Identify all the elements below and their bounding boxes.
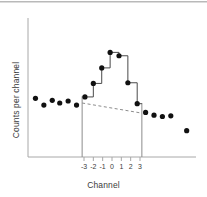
data-point-marker bbox=[82, 94, 87, 99]
data-point-marker bbox=[151, 113, 156, 118]
data-point-marker bbox=[168, 113, 173, 118]
data-point-marker bbox=[160, 114, 165, 119]
data-point-marker bbox=[74, 102, 79, 107]
x-tick-label: 0 bbox=[110, 163, 114, 170]
data-point-marker bbox=[91, 81, 96, 86]
histogram-step-outline bbox=[85, 52, 142, 103]
data-point-marker bbox=[108, 50, 113, 55]
data-point-marker bbox=[184, 128, 189, 133]
data-point-marker bbox=[57, 100, 62, 105]
axis-layer bbox=[28, 18, 196, 161]
data-point-marker bbox=[116, 53, 121, 58]
figure-canvas: -3-2-10123 Channel Counts per channel bbox=[0, 0, 207, 197]
x-tick-label: 2 bbox=[129, 163, 133, 170]
data-point-marker bbox=[41, 102, 46, 107]
background-continuum-dashed-line bbox=[82, 103, 142, 113]
data-point-markers bbox=[33, 50, 189, 133]
data-point-marker bbox=[50, 98, 55, 103]
x-tick-label: -3 bbox=[81, 163, 87, 170]
background-continuum-line bbox=[82, 103, 142, 113]
y-axis-title: Counts per channel bbox=[11, 40, 21, 160]
data-point-marker bbox=[33, 96, 38, 101]
data-point-marker bbox=[143, 110, 148, 115]
histogram-step-path bbox=[85, 52, 142, 103]
x-tick-label: 1 bbox=[119, 163, 123, 170]
x-tick-label: -2 bbox=[90, 163, 96, 170]
x-tick-label: 3 bbox=[138, 163, 142, 170]
region-of-interest-boundaries bbox=[82, 96, 142, 157]
data-point-marker bbox=[135, 101, 140, 106]
data-point-marker bbox=[125, 80, 130, 85]
data-point-marker bbox=[99, 65, 104, 70]
data-point-marker bbox=[66, 98, 71, 103]
x-axis-title: Channel bbox=[0, 180, 207, 190]
x-tick-label: -1 bbox=[100, 163, 106, 170]
